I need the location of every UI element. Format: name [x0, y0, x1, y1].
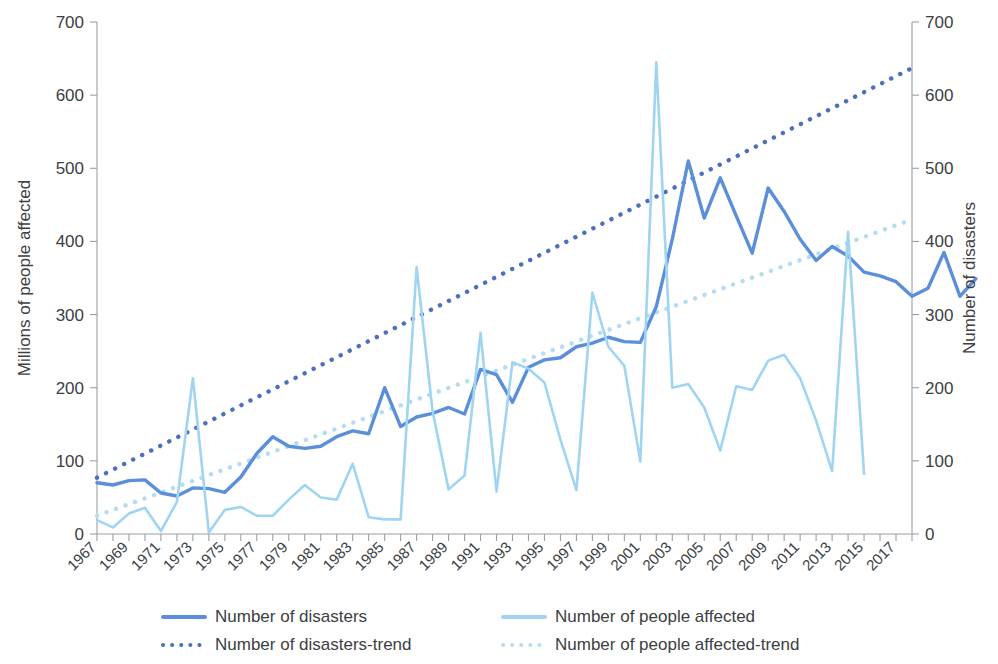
x-tick-label: 2003 [639, 538, 675, 574]
y-tick-label-right: 0 [925, 525, 934, 544]
y-tick-label-left: 0 [75, 525, 84, 544]
legend-label: Number of people affected-trend [555, 635, 799, 654]
x-tick-label: 1987 [383, 538, 419, 574]
x-tick-label: 2017 [863, 538, 899, 574]
x-tick-label: 2007 [703, 538, 739, 574]
x-tick-label: 1991 [447, 538, 483, 574]
legend-label: Number of people affected [555, 607, 755, 626]
legend-item: Number of people affected [503, 607, 755, 626]
legend-item: Number of disasters-trend [163, 635, 412, 654]
x-tick-label: 2001 [607, 538, 643, 574]
x-tick-label: 1969 [95, 538, 131, 574]
x-tick-label: 1999 [575, 538, 611, 574]
data-series-group [97, 62, 976, 532]
x-axis-tick-labels: 1967196919711973197519771979198119831985… [64, 538, 899, 574]
chart-container: 0100200300400500600700 01002003004005006… [0, 0, 998, 664]
x-tick-label: 1977 [223, 538, 259, 574]
legend-label: Number of disasters-trend [215, 635, 412, 654]
x-tick-label: 2005 [671, 538, 707, 574]
line-chart: 0100200300400500600700 01002003004005006… [0, 0, 998, 664]
chart-legend: Number of disastersNumber of people affe… [163, 607, 799, 654]
x-tick-label: 1979 [255, 538, 291, 574]
y-tick-label-left: 700 [56, 13, 84, 32]
axis-titles-group: Millions of people affectedNumber of dis… [15, 180, 979, 376]
legend-item: Number of disasters [163, 607, 367, 626]
x-tick-label: 1975 [191, 538, 227, 574]
y-tick-label-right: 700 [925, 13, 953, 32]
y-tick-label-right: 600 [925, 86, 953, 105]
x-tick-label: 1985 [351, 538, 387, 574]
y-axis-left-ticks: 0100200300400500600700 [56, 13, 97, 544]
series-line-number-of-people-affected-trend [97, 219, 912, 515]
y-tick-label-left: 300 [56, 306, 84, 325]
series-line-number-of-disasters [97, 161, 976, 496]
y-tick-label-left: 500 [56, 159, 84, 178]
legend-label: Number of disasters [215, 607, 367, 626]
y-axis-right-title: Number of disasters [960, 202, 979, 354]
y-tick-label-right: 300 [925, 306, 953, 325]
y-tick-label-right: 200 [925, 379, 953, 398]
y-tick-label-right: 500 [925, 159, 953, 178]
x-tick-label: 1971 [127, 538, 163, 574]
axes-group [97, 22, 912, 534]
y-axis-left-title: Millions of people affected [15, 180, 34, 376]
x-tick-label: 1995 [511, 538, 547, 574]
x-tick-label: 1983 [319, 538, 355, 574]
x-tick-label: 1993 [479, 538, 515, 574]
legend-item: Number of people affected-trend [503, 635, 799, 654]
y-tick-label-left: 600 [56, 86, 84, 105]
x-tick-label: 2013 [799, 538, 835, 574]
x-tick-label: 2015 [831, 538, 867, 574]
y-tick-label-left: 400 [56, 232, 84, 251]
x-tick-label: 1981 [287, 538, 323, 574]
y-tick-label-left: 200 [56, 379, 84, 398]
y-tick-label-right: 400 [925, 232, 953, 251]
x-tick-label: 1989 [415, 538, 451, 574]
y-tick-label-right: 100 [925, 452, 953, 471]
series-line-number-of-people-affected [97, 62, 864, 532]
x-tick-label: 1967 [64, 538, 100, 574]
y-tick-label-left: 100 [56, 452, 84, 471]
x-tick-label: 1973 [159, 538, 195, 574]
x-tick-label: 2011 [767, 538, 802, 573]
x-tick-label: 1997 [543, 538, 579, 574]
x-tick-label: 2009 [735, 538, 771, 574]
